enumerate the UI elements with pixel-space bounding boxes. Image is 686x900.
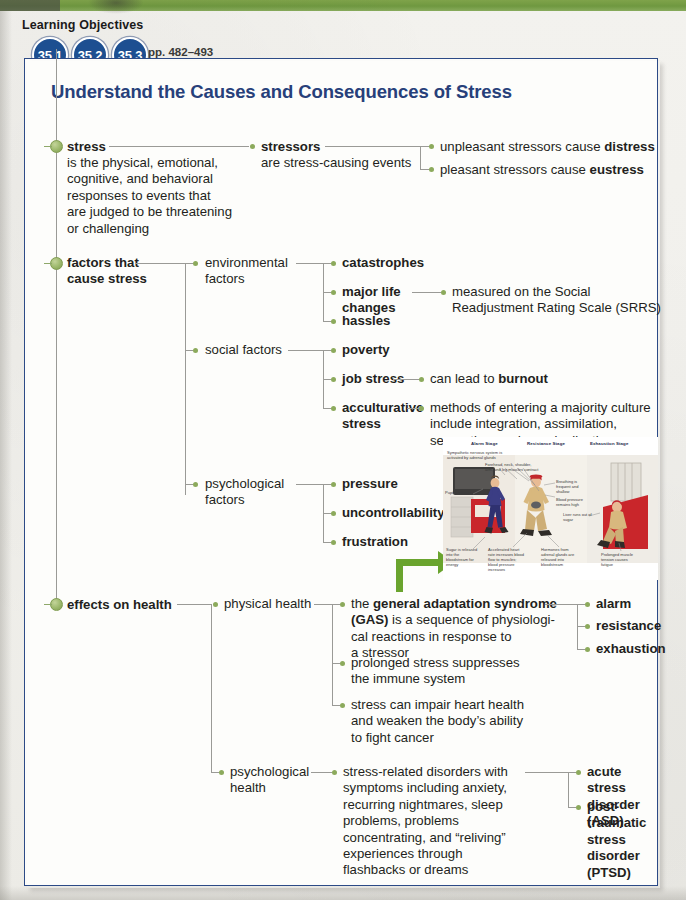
connector-gas [332,604,340,605]
bullet-poverty [331,348,336,353]
item-major-life-changes: major life changes [342,284,401,317]
item-line: major life [342,284,401,300]
item-line: acute stress [587,764,657,797]
item-line: experiences through [343,846,508,862]
page-bottom-shadow [0,886,686,900]
spine-effects-groups [211,604,212,772]
item-hassles: hassles [342,313,390,329]
item-pressure: pressure [342,476,398,492]
connector-catastrophes [323,263,331,264]
spine-main [56,49,57,605]
text-fragment: is a sequence of physiologi- [388,612,554,627]
label-line: cause stress [67,271,147,287]
text-fragment-bold: (GAS) [351,612,388,627]
bullet-uncontrollability [331,511,336,516]
connector-pressure [323,484,331,485]
item-line: stress disorder [587,832,657,865]
bullet-exhaustion [585,647,590,652]
spine-factor-groups [185,263,186,495]
label-psychological-factors: psychological factors [205,476,284,509]
item-line: (PTSD) [587,865,657,881]
item-gas: the general adaptation syndrome (GAS) is… [351,596,557,662]
bullet-burnout-detail [419,377,424,382]
connector-acculturative-to-detail [407,408,419,409]
label-environmental-factors: environmental factors [205,255,288,288]
connector-job-stress-to-burnout [393,379,419,380]
term-stressors: stressors [261,139,320,155]
spine-disorder-subitems [568,772,569,807]
item-line: problems, problems [343,813,508,829]
figure-caption-hormones: Hormones from adrenal glands are release… [541,547,575,567]
bullet-ptsd [576,805,581,810]
connector-psychhealth-to-item [311,772,332,773]
detail-srrs: measured on the Social Readjustment Rati… [452,284,661,317]
item-line: stress [342,416,423,432]
outcome-eustress-term: eustress [590,162,644,177]
label-line: factors [205,492,284,508]
definition-line: are judged to be threatening [67,204,267,220]
bullet-stressors [250,144,255,149]
label-factors-cause-stress: factors that cause stress [67,255,147,288]
connector-factors-stub [44,263,52,264]
item-line: flashbacks or dreams [343,862,508,878]
connector-stage-exhaustion [577,649,585,650]
bullet-social-factors [193,348,198,353]
label-psychological-health: psychological health [230,764,309,797]
bullet-psychological-factors [193,482,198,487]
item-line: stress can impair heart health [351,697,524,713]
item-line: stress-related disorders with [343,764,508,780]
page-range: pp. 482–493 [148,46,213,58]
connector-major-life-changes [323,292,331,293]
item-catastrophes: catastrophes [342,255,424,271]
bullet-catastrophes [331,261,336,266]
item-line: and weaken the body’s ability [351,713,524,729]
definition-line: or challenging [67,221,267,237]
item-line: post-traumatic [587,799,657,832]
connector-major-life-to-srrs [412,292,441,293]
figure-stage-title-resistance: Resistance Stage [527,441,565,446]
figure-stage-title-exhaustion: Exhaustion Stage [590,441,628,446]
item-line: recurring nightmares, sleep [343,797,508,813]
connector-stage-resistance [577,626,585,627]
item-uncontrollability: uncontrollability [342,505,445,521]
connector-psychological-factors [185,484,193,485]
detail-burnout-term: burnout [498,371,548,386]
detail-line: methods of entering a majority culture [430,400,651,416]
connector-outcome-2 [420,169,429,170]
bullet-srrs-detail [441,290,446,295]
label-social-factors: social factors [205,342,282,358]
bullet-pressure [331,482,336,487]
text-fragment: the [351,596,373,611]
item-line: prolonged stress suppresses [351,655,520,671]
connector-outcome-1 [420,146,429,147]
item-stress-heart-cancer: stress can impair heart health and weake… [351,697,524,746]
connector-frustration [323,542,331,543]
definition-line: cognitive, and behavioral [67,171,267,187]
connector-immune [332,663,340,664]
definition-line: responses to events that [67,188,267,204]
scan-smudge-secondary [88,0,144,14]
connector-effects-stub [44,604,52,605]
detail-burnout-prefix: can lead to [430,371,498,386]
outcome-distress-term: distress [604,139,655,154]
text-fragment-bold: general adaptation syndrome [373,596,557,611]
connector-social [185,350,193,351]
connector-stressors-to-outcomes [325,146,420,147]
connector-asd [568,772,576,773]
connector-stress-to-stressors [109,146,249,147]
figure-stage-title-alarm: Alarm Stage [471,441,498,446]
connector-stress-stub [44,146,52,147]
connector-gas-to-stages [545,604,577,605]
bullet-major-life-changes [331,290,336,295]
item-acculturative-stress: acculturative stress [342,400,423,433]
label-effects-on-health: effects on health [67,597,172,613]
bullet-distress [429,144,434,149]
connector-psych-to-items [296,484,323,485]
bullet-stress-related-disorders [332,770,337,775]
item-line: symptoms including anxiety, [343,780,508,796]
connector-physical-to-items [314,604,332,605]
bullet-physical-health [213,602,218,607]
definition-stress: is the physical, emotional, cognitive, a… [67,155,267,237]
definition-line: is the physical, emotional, [67,155,267,171]
item-line: concentrating, and “reliving” [343,830,508,846]
